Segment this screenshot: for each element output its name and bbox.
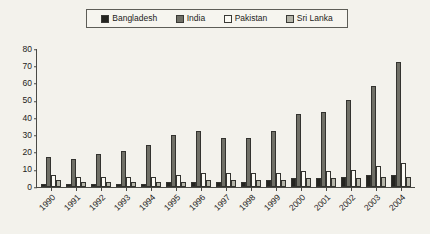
x-axis-tick-label: 1994 xyxy=(137,193,156,212)
y-axis-tick-label: 20 xyxy=(3,148,37,157)
y-axis-tick-label: 70 xyxy=(3,62,37,71)
bar-sri-lanka[interactable] xyxy=(406,177,411,187)
bar-sri-lanka[interactable] xyxy=(281,180,286,187)
bar-group: 1997 xyxy=(213,49,238,187)
x-axis-tick-label: 1999 xyxy=(263,193,282,212)
x-axis-tick xyxy=(326,187,327,191)
bar-group: 2000 xyxy=(289,49,314,187)
x-axis-tick-label: 2000 xyxy=(288,193,307,212)
plot-frame: 80706050403020100 1990199119921993199419… xyxy=(36,49,415,188)
legend-item-pakistan[interactable]: Pakistan xyxy=(224,14,268,23)
y-axis-tick-label: 30 xyxy=(3,131,37,140)
x-axis-tick-label: 2002 xyxy=(338,193,357,212)
bar-group: 1996 xyxy=(188,49,213,187)
x-axis-tick-label: 1993 xyxy=(112,193,131,212)
x-axis-tick-label: 2003 xyxy=(363,193,382,212)
bar-sri-lanka[interactable] xyxy=(356,178,361,187)
legend-label: Sri Lanka xyxy=(297,14,333,23)
y-axis-tick-label: 40 xyxy=(3,114,37,123)
x-axis-tick-label: 2004 xyxy=(388,193,407,212)
legend-label: Pakistan xyxy=(235,14,268,23)
legend-item-sri-lanka[interactable]: Sri Lanka xyxy=(286,14,333,23)
x-axis-tick xyxy=(276,187,277,191)
legend-item-india[interactable]: India xyxy=(176,14,205,23)
x-axis-tick xyxy=(151,187,152,191)
bar-group: 2003 xyxy=(364,49,389,187)
bar-group: 1994 xyxy=(138,49,163,187)
bar-sri-lanka[interactable] xyxy=(206,180,211,187)
x-axis-tick xyxy=(376,187,377,191)
x-axis-tick-label: 1990 xyxy=(37,193,56,212)
legend-label: India xyxy=(187,14,205,23)
bar-sri-lanka[interactable] xyxy=(131,182,136,187)
legend-item-bangladesh[interactable]: Bangladesh xyxy=(101,14,157,23)
bar-sri-lanka[interactable] xyxy=(81,182,86,187)
x-axis-tick-label: 1998 xyxy=(238,193,257,212)
x-axis-tick xyxy=(351,187,352,191)
bar-sri-lanka[interactable] xyxy=(381,177,386,187)
y-axis-tick-label: 10 xyxy=(3,166,37,175)
x-axis-tick xyxy=(126,187,127,191)
bar-group: 1995 xyxy=(163,49,188,187)
x-axis-tick xyxy=(201,187,202,191)
x-axis-tick xyxy=(51,187,52,191)
x-axis-tick-label: 1995 xyxy=(162,193,181,212)
bar-sri-lanka[interactable] xyxy=(256,180,261,187)
x-axis-tick xyxy=(251,187,252,191)
x-axis-tick xyxy=(176,187,177,191)
bar-sri-lanka[interactable] xyxy=(56,180,61,187)
bar-sri-lanka[interactable] xyxy=(331,178,336,187)
x-axis-tick xyxy=(101,187,102,191)
x-axis-tick xyxy=(301,187,302,191)
bar-group: 2001 xyxy=(314,49,339,187)
bar-group: 1992 xyxy=(88,49,113,187)
chart-container: BangladeshIndiaPakistanSri Lanka 8070605… xyxy=(0,0,430,234)
plot-area: 1990199119921993199419951996199719981999… xyxy=(37,49,415,187)
y-axis-tick-label: 60 xyxy=(3,79,37,88)
legend-swatch-icon xyxy=(101,15,109,23)
x-axis-tick-label: 1992 xyxy=(87,193,106,212)
x-axis-tick xyxy=(401,187,402,191)
bar-sri-lanka[interactable] xyxy=(156,182,161,187)
x-axis-tick-label: 1996 xyxy=(188,193,207,212)
legend-swatch-icon xyxy=(176,15,184,23)
chart-legend: BangladeshIndiaPakistanSri Lanka xyxy=(86,9,348,28)
x-axis-tick xyxy=(76,187,77,191)
bar-group: 1990 xyxy=(38,49,63,187)
x-axis-tick-label: 1991 xyxy=(62,193,81,212)
x-axis-tick-label: 1997 xyxy=(213,193,232,212)
bar-group: 2004 xyxy=(389,49,414,187)
y-axis-tick-label: 0 xyxy=(3,183,37,192)
bar-group: 1993 xyxy=(113,49,138,187)
legend-label: Bangladesh xyxy=(112,14,157,23)
x-axis-tick-label: 2001 xyxy=(313,193,332,212)
bar-sri-lanka[interactable] xyxy=(181,182,186,187)
x-axis-tick xyxy=(226,187,227,191)
bar-group: 1999 xyxy=(264,49,289,187)
legend-swatch-icon xyxy=(286,15,294,23)
bar-sri-lanka[interactable] xyxy=(106,182,111,187)
legend-swatch-icon xyxy=(224,15,232,23)
y-axis-tick-label: 50 xyxy=(3,97,37,106)
bar-sri-lanka[interactable] xyxy=(231,180,236,187)
bar-group: 1998 xyxy=(239,49,264,187)
bar-group: 1991 xyxy=(63,49,88,187)
bar-group: 2002 xyxy=(339,49,364,187)
bar-sri-lanka[interactable] xyxy=(306,178,311,187)
y-axis-tick-label: 80 xyxy=(3,45,37,54)
